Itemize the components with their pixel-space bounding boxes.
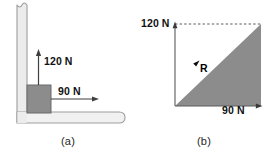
panel-a-caption: (a) (0, 135, 136, 147)
figure-root: 120 N 90 N (a) 120 N (0, 0, 272, 149)
shaded-triangle (175, 24, 261, 106)
panel-a-drawing (0, 0, 136, 149)
panel-b: 120 N 90 N R (b) (136, 0, 272, 149)
axis-label-horizontal-b: 90 N (222, 104, 245, 116)
floor-shape (17, 112, 125, 123)
force-label-horizontal-a: 90 N (58, 85, 81, 97)
panel-a: 120 N 90 N (a) (0, 0, 136, 149)
horizontal-force-arrow (51, 96, 99, 101)
panel-b-caption: (b) (136, 135, 272, 147)
wall-shape (17, 3, 27, 122)
block-shape (27, 85, 51, 113)
wall-floor-joint (18, 112, 27, 123)
force-label-vertical-a: 120 N (44, 55, 73, 67)
vertical-force-arrow (36, 49, 41, 85)
resultant-label: R (200, 62, 208, 74)
resultant-arrow (193, 61, 199, 67)
axis-label-vertical-b: 120 N (141, 17, 170, 29)
vertical-axis-line (173, 22, 178, 107)
